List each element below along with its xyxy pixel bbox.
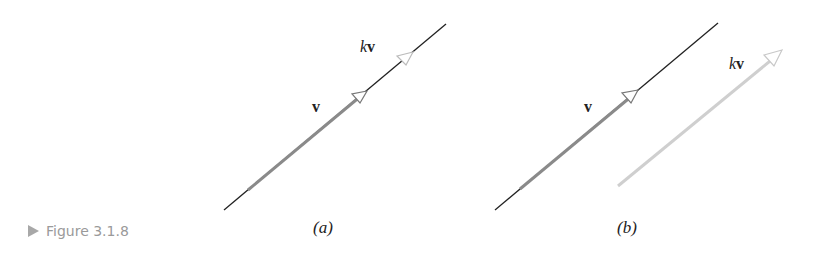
label-v-a: v [312,98,320,116]
figure-diagram [0,0,829,257]
label-v-b: v [584,98,592,116]
figure-caption: Figure 3.1.8 [28,223,129,239]
caption-text: Figure 3.1.8 [46,223,129,239]
panel-label-a: (a) [313,218,333,238]
label-kv-a: kv [360,38,375,56]
vector-v-b [520,95,633,189]
triangle-right-icon [28,225,39,237]
vector-kv-b [618,57,775,186]
vector-v-a [248,95,362,190]
label-kv-b: kv [729,55,744,73]
panel-label-b: (b) [617,218,637,238]
